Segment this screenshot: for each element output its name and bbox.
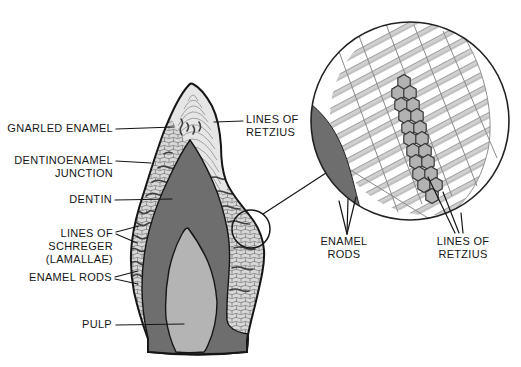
tooth-enamel-diagram: GNARLED ENAMEL DENTINOENAMEL JUNCTION DE…	[0, 0, 521, 367]
inset-rods-leader-1	[339, 201, 347, 234]
dentinoenamel-leader	[116, 161, 151, 163]
label-lines-of-retzius-tooth: LINES OF RETZIUS	[246, 113, 299, 139]
diagram-artwork	[0, 0, 521, 367]
label-lines-of-schreger: LINES OF SCHREGER (LAMALLAE)	[0, 227, 113, 266]
label-pulp: PULP	[0, 318, 112, 331]
label-schreger-line1: LINES OF	[0, 227, 113, 240]
label-dentin: DENTIN	[0, 193, 112, 206]
label-inset-lines-of-retzius: LINES OF RETZIUS	[423, 235, 503, 261]
label-enamel-rods: ENAMEL RODS	[0, 271, 112, 284]
magnified-inset	[309, 17, 509, 220]
label-dentinoenamel-junction: DENTINOENAMEL JUNCTION	[0, 154, 113, 180]
label-inset-retzius-line2: RETZIUS	[423, 248, 503, 261]
label-inset-enamel-rods: ENAMEL RODS	[304, 235, 384, 261]
label-inset-rods-line2: RODS	[304, 248, 384, 261]
label-inset-rods-line1: ENAMEL	[304, 235, 384, 248]
label-gnarled-enamel: GNARLED ENAMEL	[0, 122, 113, 135]
zoom-connector-line	[263, 173, 326, 214]
inset-retzius-leader-3	[461, 213, 463, 233]
label-inset-retzius-line1: LINES OF	[423, 235, 503, 248]
label-retzius-tooth-line2: RETZIUS	[246, 126, 299, 139]
label-schreger-line3: (LAMALLAE)	[0, 253, 113, 266]
label-dentinoenamel-line1: DENTINOENAMEL	[0, 154, 113, 167]
tooth-cross-section	[130, 83, 264, 355]
label-retzius-tooth-line1: LINES OF	[246, 113, 299, 126]
label-schreger-line2: SCHREGER	[0, 240, 113, 253]
label-dentinoenamel-line2: JUNCTION	[0, 167, 113, 180]
